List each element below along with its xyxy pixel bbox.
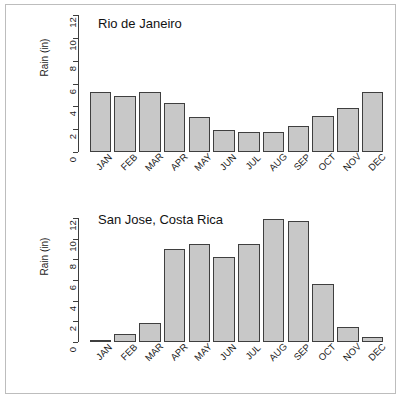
x-tick-label-jul: JUL: [243, 152, 263, 172]
chart-panel-sanjose: San Jose, Costa Rica Rain (in) 024681012…: [0, 196, 401, 399]
bar-slot: [138, 218, 163, 342]
bar-slot: [237, 218, 262, 342]
x-tick-label-sep: SEP: [292, 341, 313, 362]
x-tick-label-feb: FEB: [119, 151, 140, 172]
bar-dec[interactable]: [362, 92, 383, 153]
x-tick-label-jun: JUN: [218, 341, 239, 362]
bar-slot: [162, 218, 187, 342]
bar-nov[interactable]: [337, 108, 358, 152]
y-axis-label: Rain (in): [39, 0, 50, 118]
bar-jun[interactable]: [213, 130, 234, 152]
bar-sep[interactable]: [288, 126, 309, 152]
bar-feb[interactable]: [114, 96, 135, 152]
x-label-slot: FEB: [113, 156, 138, 190]
bar-slot: [88, 15, 113, 152]
bar-slot: [336, 218, 361, 342]
x-label-slot: MAY: [187, 156, 212, 190]
bar-jan[interactable]: [90, 92, 111, 153]
bar-slot: [286, 218, 311, 342]
x-label-slot: AUG: [261, 156, 286, 190]
x-axis-labels: JANFEBMARAPRMAYJUNJULAUGSEPOCTNOVDEC: [88, 156, 385, 190]
bar-slot: [336, 15, 361, 152]
x-tick-label-jul: JUL: [243, 342, 263, 362]
x-label-slot: SEP: [286, 346, 311, 380]
bar-oct[interactable]: [312, 284, 333, 342]
bar-mar[interactable]: [139, 323, 160, 342]
bar-slot: [311, 15, 336, 152]
bar-aug[interactable]: [263, 219, 284, 342]
y-tick-label: 8: [67, 259, 78, 275]
y-tick-label: 2: [67, 321, 78, 337]
x-tick-label-jan: JAN: [94, 342, 114, 362]
x-axis-labels: JANFEBMARAPRMAYJUNJULAUGSEPOCTNOVDEC: [88, 346, 385, 380]
bar-jul[interactable]: [238, 244, 259, 342]
x-label-slot: JAN: [88, 346, 113, 380]
x-label-slot: JUN: [212, 156, 237, 190]
figure-canvas: Rio de Janeiro Rain (in) 024681012 JANFE…: [0, 0, 401, 399]
x-label-slot: JAN: [88, 156, 113, 190]
x-label-slot: MAR: [138, 156, 163, 190]
bar-slot: [261, 218, 286, 342]
y-tick-label: 8: [67, 60, 78, 76]
chart-panel-rio: Rio de Janeiro Rain (in) 024681012 JANFE…: [0, 0, 401, 196]
bar-slot: [212, 15, 237, 152]
y-tick-label: 2: [67, 129, 78, 145]
bar-apr[interactable]: [164, 103, 185, 152]
y-axis-line: [78, 218, 79, 342]
bar-apr[interactable]: [164, 249, 185, 342]
bar-jul[interactable]: [238, 132, 259, 152]
y-tick-label: 12: [67, 218, 78, 234]
y-tick-label: 10: [67, 238, 78, 254]
x-label-slot: FEB: [113, 346, 138, 380]
x-tick-label-jun: JUN: [218, 151, 239, 172]
bar-oct[interactable]: [312, 116, 333, 152]
bar-slot: [187, 15, 212, 152]
bar-may[interactable]: [189, 117, 210, 152]
y-tick-label: 12: [67, 15, 78, 31]
bar-sep[interactable]: [288, 221, 309, 342]
y-tick-label: 4: [67, 106, 78, 122]
x-label-slot: JUL: [237, 346, 262, 380]
bar-slot: [286, 15, 311, 152]
y-tick-label: 6: [67, 280, 78, 296]
x-label-slot: MAY: [187, 346, 212, 380]
y-tick-label: 10: [67, 37, 78, 53]
y-tick-label: 6: [67, 83, 78, 99]
plot-area: [88, 218, 385, 342]
y-tick-label: 0: [67, 152, 78, 168]
x-label-slot: APR: [162, 346, 187, 380]
x-label-slot: JUN: [212, 346, 237, 380]
bar-jun[interactable]: [213, 257, 234, 342]
x-label-slot: DEC: [360, 156, 385, 190]
bar-mar[interactable]: [139, 92, 160, 153]
bar-may[interactable]: [189, 244, 210, 342]
bar-slot: [88, 218, 113, 342]
bar-feb[interactable]: [114, 334, 135, 342]
y-tick-label: 4: [67, 300, 78, 316]
x-label-slot: NOV: [336, 156, 361, 190]
x-tick-label-sep: SEP: [292, 151, 313, 172]
plot-area: [88, 15, 385, 152]
y-tick-label: 0: [67, 342, 78, 358]
y-axis-line: [78, 15, 79, 152]
x-label-slot: OCT: [311, 346, 336, 380]
bar-slot: [261, 15, 286, 152]
x-tick-label-dec: DEC: [366, 341, 388, 363]
bar-slot: [212, 218, 237, 342]
bar-slot: [113, 15, 138, 152]
bar-slot: [311, 218, 336, 342]
x-tick-label-dec: DEC: [366, 151, 388, 173]
x-label-slot: NOV: [336, 346, 361, 380]
bar-aug[interactable]: [263, 132, 284, 152]
bar-slot: [360, 15, 385, 152]
bar-jan[interactable]: [90, 340, 111, 342]
x-label-slot: DEC: [360, 346, 385, 380]
x-label-slot: APR: [162, 156, 187, 190]
x-tick-label-feb: FEB: [119, 341, 140, 362]
bar-slot: [187, 218, 212, 342]
x-label-slot: JUL: [237, 156, 262, 190]
bar-slot: [113, 218, 138, 342]
bar-slot: [360, 218, 385, 342]
x-label-slot: OCT: [311, 156, 336, 190]
x-label-slot: MAR: [138, 346, 163, 380]
